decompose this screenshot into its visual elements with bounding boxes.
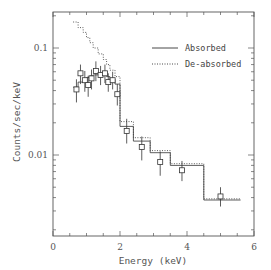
x-tick-labels: 0 2 4 6 bbox=[50, 242, 257, 252]
data-point-marker bbox=[115, 92, 120, 97]
data-point-marker bbox=[89, 76, 94, 81]
y-axis-label: Counts/sec/keV bbox=[11, 82, 22, 162]
x-axis-label: Energy (keV) bbox=[119, 255, 188, 266]
data-point-marker bbox=[102, 71, 107, 76]
legend-label-deabsorbed: De-absorbed bbox=[185, 59, 241, 69]
data-point-marker bbox=[78, 71, 83, 76]
data-point-marker bbox=[139, 144, 144, 149]
x-tick-label-0: 0 bbox=[50, 242, 56, 252]
data-points bbox=[74, 61, 223, 206]
spectrum-chart: 0 2 4 6 0.1 0.01 Energy (keV) Counts/sec… bbox=[0, 0, 271, 270]
data-point-marker bbox=[74, 87, 79, 92]
y-tick-label-0.01: 0.01 bbox=[28, 150, 48, 160]
data-point-marker bbox=[179, 168, 184, 173]
y-tick-labels: 0.1 0.01 bbox=[28, 43, 48, 160]
data-point-marker bbox=[86, 83, 91, 88]
absorbed-model-line bbox=[73, 74, 241, 200]
data-point-marker bbox=[93, 68, 98, 73]
x-tick-label-4: 4 bbox=[184, 242, 190, 252]
y-tick-label-0.1: 0.1 bbox=[34, 43, 48, 53]
data-point-marker bbox=[158, 160, 163, 165]
legend-label-absorbed: Absorbed bbox=[185, 43, 226, 53]
data-point-marker bbox=[110, 78, 115, 83]
data-point-marker bbox=[218, 194, 223, 199]
x-tick-label-6: 6 bbox=[251, 242, 257, 252]
legend: Absorbed De-absorbed bbox=[152, 43, 241, 69]
x-tick-label-2: 2 bbox=[117, 242, 123, 252]
data-point-marker bbox=[124, 128, 129, 133]
data-point-marker bbox=[82, 78, 87, 83]
